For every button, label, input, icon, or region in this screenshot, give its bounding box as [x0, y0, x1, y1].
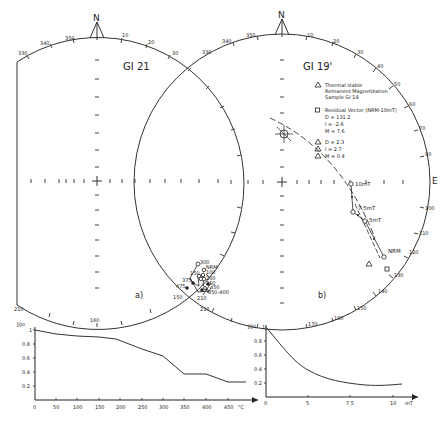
svg-text:0.8: 0.8: [254, 338, 262, 344]
stereonet-gi21-degree-labels: 330 340 350 10 20 30 150 160 210 210: [14, 32, 207, 323]
svg-text:30: 30: [357, 49, 363, 55]
svg-text:250: 250: [138, 404, 148, 410]
svg-text:60: 60: [409, 101, 415, 107]
svg-text:20: 20: [333, 38, 339, 44]
svg-text:210: 210: [200, 306, 210, 312]
svg-text:160: 160: [90, 317, 100, 323]
svg-text:150: 150: [190, 270, 200, 276]
svg-text:D = 2.3: D = 2.3: [325, 139, 344, 145]
svg-text:160: 160: [334, 315, 344, 321]
svg-text:1: 1: [29, 327, 32, 333]
svg-text:°C: °C: [238, 404, 245, 410]
svg-text:D = 131.2: D = 131.2: [325, 114, 351, 120]
svg-text:350-400: 350-400: [208, 289, 229, 295]
svg-text:0.6: 0.6: [22, 355, 30, 361]
thermal-demag-curve: [35, 330, 246, 382]
north-label-a: N: [93, 13, 100, 23]
svg-text:10: 10: [307, 32, 313, 38]
svg-text:210: 210: [14, 306, 24, 312]
gi19-point-labels: 10mT 7.5mT 5mT NRM: [355, 181, 401, 254]
svg-text:40: 40: [377, 63, 383, 69]
svg-text:7.5: 7.5: [346, 400, 354, 406]
svg-text:400: 400: [202, 404, 212, 410]
panel-b-legend: Thermal stable Remanent Magnetization Sa…: [315, 82, 397, 159]
svg-text:0.2: 0.2: [254, 380, 262, 386]
svg-text:210: 210: [197, 295, 207, 301]
svg-text:150: 150: [173, 294, 183, 300]
svg-text:M = 0.4: M = 0.4: [325, 153, 345, 159]
svg-text:0.4: 0.4: [254, 366, 262, 372]
north-label-b: N: [278, 10, 285, 20]
panel-b-label: b): [318, 291, 326, 300]
panel-a-label: a): [135, 291, 143, 300]
east-label-b: E: [432, 176, 438, 186]
svg-text:I = -2.6: I = -2.6: [325, 121, 344, 127]
svg-text:350: 350: [180, 404, 190, 410]
svg-text:0.2: 0.2: [22, 383, 30, 389]
svg-text:10mT: 10mT: [355, 181, 371, 187]
svg-text:Residual Vector (NRM-10mT): Residual Vector (NRM-10mT): [325, 107, 397, 113]
svg-text:330: 330: [18, 50, 28, 56]
triangle-legend-icon: [315, 82, 321, 87]
svg-text:1: 1: [262, 324, 265, 330]
svg-text:140: 140: [378, 288, 388, 294]
svg-text:340: 340: [40, 40, 50, 46]
svg-text:mT: mT: [405, 400, 414, 406]
svg-text:170: 170: [308, 321, 318, 327]
svg-text:350: 350: [65, 35, 75, 41]
af-demag-chart: J/Jo 1 0.8 0.6 0.4 0.2 0 5 7.5 10 mT: [247, 323, 418, 406]
svg-text:0: 0: [264, 400, 267, 406]
paleomag-figure: 330 340 350 10 20 30 150 160 210 210 N G…: [0, 0, 447, 422]
svg-text:130: 130: [394, 272, 404, 278]
svg-text:M = 7.6: M = 7.6: [325, 128, 345, 134]
svg-text:450: 450: [224, 404, 234, 410]
svg-text:100: 100: [73, 404, 83, 410]
svg-text:150: 150: [357, 305, 367, 311]
svg-text:J/Jo: J/Jo: [16, 321, 25, 327]
svg-text:J/Jo: J/Jo: [247, 323, 256, 329]
svg-text:NRM: NRM: [388, 248, 401, 254]
stereonet-gi19-degree-labels: 330 340 350 10 20 30 40 50 60 70 80 100 …: [200, 32, 435, 327]
svg-text:50: 50: [394, 81, 400, 87]
svg-text:200: 200: [116, 404, 126, 410]
svg-text:300: 300: [159, 404, 169, 410]
svg-text:I = 2.7: I = 2.7: [325, 146, 342, 152]
svg-text:10: 10: [390, 400, 396, 406]
svg-text:0.8: 0.8: [22, 341, 30, 347]
panel-b-title: GI 19': [303, 61, 332, 72]
thermal-stable-triangle: [366, 261, 372, 266]
square-legend-icon: [316, 108, 320, 112]
svg-text:80: 80: [425, 151, 431, 157]
svg-text:475: 475: [176, 283, 186, 289]
svg-text:330: 330: [202, 49, 212, 55]
svg-text:0.6: 0.6: [254, 352, 262, 358]
af-demag-curve: [266, 327, 402, 385]
svg-text:30: 30: [172, 50, 178, 56]
svg-text:350: 350: [246, 32, 256, 38]
svg-text:10: 10: [122, 32, 128, 38]
svg-text:340: 340: [222, 38, 232, 44]
x-axis-arrow-icon: [252, 397, 258, 403]
svg-text:0: 0: [33, 404, 36, 410]
svg-text:70: 70: [419, 125, 425, 131]
residual-vector-square: [385, 267, 389, 271]
svg-text:150: 150: [95, 404, 105, 410]
svg-text:0.4: 0.4: [22, 369, 30, 375]
svg-text:20: 20: [148, 39, 154, 45]
svg-text:5: 5: [306, 400, 309, 406]
thermal-demag-chart: J/Jo 1 0.8 0.6 0.4 0.2 0 50 100 150 200 …: [16, 321, 258, 410]
svg-text:Sample GI 19: Sample GI 19: [325, 94, 359, 101]
svg-text:100: 100: [425, 205, 435, 211]
svg-text:5mT: 5mT: [369, 217, 382, 223]
panel-a-title: GI 21: [123, 61, 150, 72]
svg-text:120: 120: [409, 249, 419, 255]
svg-text:50: 50: [53, 404, 59, 410]
svg-text:110: 110: [419, 230, 429, 236]
svg-text:7.5mT: 7.5mT: [358, 205, 376, 211]
